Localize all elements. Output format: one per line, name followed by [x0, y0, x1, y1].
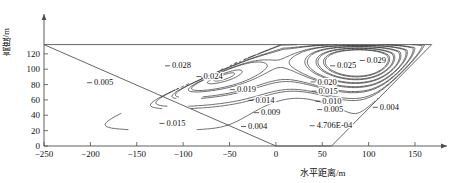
x-tick-label: 50: [318, 149, 328, 159]
x-tick-label: −200: [81, 149, 100, 159]
x-tick-label: 100: [362, 149, 376, 159]
label-text: 0.015: [166, 118, 185, 128]
contour-canvas: −250−200−150−100−50050100150020406080100…: [0, 0, 457, 183]
y-tick-label: 100: [27, 64, 41, 74]
contour-label: 0.0050.005: [87, 77, 113, 87]
y-tick-label: 20: [31, 126, 41, 136]
x-tick-label: 150: [408, 149, 422, 159]
contour-label: 0.0050.005: [317, 104, 343, 114]
label-text: 0.009: [261, 107, 280, 117]
x-axis-arrow: [441, 144, 447, 149]
y-tick-label: 80: [31, 80, 41, 90]
contour-line: [156, 88, 179, 106]
y-tick-label: 120: [27, 49, 41, 59]
label-text: 0.004: [380, 102, 400, 112]
contour-label: 4.706E-044.706E-04: [310, 120, 353, 130]
label-text: 0.014: [255, 95, 275, 105]
contour-label: 0.0280.028: [165, 60, 191, 70]
contour-label: 0.0290.029: [360, 55, 386, 65]
y-tick-label: 40: [31, 110, 41, 120]
contour-line: [239, 61, 241, 62]
label-text: 0.004: [248, 121, 268, 131]
contour-line: [105, 113, 128, 129]
x-tick-label: 0: [274, 149, 279, 159]
x-tick-label: −100: [174, 149, 193, 159]
label-text: 0.024: [204, 71, 224, 81]
y-tick-label: 60: [31, 95, 41, 105]
contour-label: 0.0250.025: [330, 60, 356, 70]
contour-label: 0.0040.004: [373, 102, 400, 112]
contour-label: 0.0090.009: [254, 107, 280, 117]
y-axis-arrow: [42, 14, 47, 20]
label-text: 0.005: [94, 77, 113, 87]
y-tick-label: 0: [36, 141, 41, 151]
contour-label: 0.0150.015: [312, 86, 338, 96]
label-text: 0.029: [367, 55, 386, 65]
label-text: 0.015: [319, 86, 338, 96]
contour-line: [230, 65, 232, 66]
x-tick-label: −150: [127, 149, 146, 159]
contour-label: 0.0190.019: [230, 84, 256, 94]
contour-figure: 高度/m 水平距离/m −250−200−150−100−50050100150…: [0, 0, 457, 183]
contour-line: [188, 45, 422, 107]
label-text: 0.019: [237, 84, 256, 94]
contour-line: [188, 45, 407, 92]
label-text: 0.028: [172, 60, 191, 70]
label-text: 0.025: [337, 60, 356, 70]
contour-label-layer: 0.0280.0280.0240.0240.0190.0190.0140.014…: [87, 55, 400, 131]
contour-line: [374, 101, 375, 102]
contour-label: 0.0150.015: [159, 118, 185, 128]
label-text: 4.706E-04: [317, 120, 353, 130]
x-tick-label: −50: [222, 149, 237, 159]
label-text: 0.005: [324, 104, 343, 114]
contour-label: 0.0040.004: [241, 121, 268, 131]
